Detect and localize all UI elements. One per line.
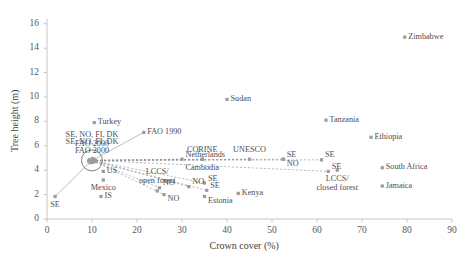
y-tick-label: 2 [15,189,39,199]
x-tick-label: 20 [123,225,151,235]
point-label: SE [15,200,95,209]
point-label: Tanzania [330,115,359,124]
point-label: US [107,166,117,175]
point-label: NO [287,159,299,168]
x-tick-label: 90 [438,225,466,235]
y-tick-label: 12 [15,67,39,77]
x-tick-label: 30 [168,225,196,235]
point-label: NO [192,177,204,186]
y-axis-title: Tree height (m) [9,90,20,152]
point-label: NO [168,194,180,203]
point-label: Turkey [98,117,121,126]
point-label: SE [287,150,297,159]
x-tick-label: 10 [78,225,106,235]
point-label: Sudan [231,94,251,103]
y-tick-label: 16 [15,18,39,28]
x-tick-label: 0 [33,225,61,235]
point-label: UNESCO [210,145,290,154]
cluster-label: SE, NO, FI, DK FAO 2000 [42,130,142,148]
point-label: FAO 1990 [147,127,181,136]
point-label: Estonia [208,196,233,205]
point-label: South Africa [386,162,428,171]
point-label: SE [332,162,342,171]
point-label: IS [105,191,112,200]
y-tick-label: 0 [15,213,39,223]
y-tick-label: 14 [15,42,39,52]
point-label: LCCS/ closed forest [297,174,377,192]
x-tick-label: 80 [393,225,421,235]
point-label: Jamaica [386,181,412,190]
x-tick-label: 60 [303,225,331,235]
x-tick-label: 40 [213,225,241,235]
y-tick-label: 4 [15,164,39,174]
point-label: Ethiopia [375,132,403,141]
point-label: LCCS/ open forest [117,167,197,185]
point-label: NO [163,178,175,187]
point-label: SE [210,181,220,190]
x-tick-label: 50 [258,225,286,235]
point-label: SE [325,150,335,159]
point-label: Zimbabwe [408,32,443,41]
x-axis-title: Crown cover (%) [210,240,279,251]
scatter-chart-figure: 0102030405060708090 0246810121416 Zimbab… [0,0,466,260]
point-label: Kenya [242,188,263,197]
x-tick-label: 70 [348,225,376,235]
